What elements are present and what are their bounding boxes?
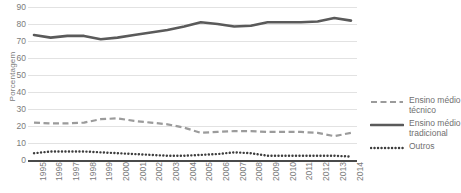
x-axis-tick-2000: 2000	[121, 162, 131, 181]
x-axis-tick-labels: 1995199619971998199920002001200220032004…	[28, 160, 357, 193]
x-axis-tick-2012: 2012	[321, 162, 331, 181]
x-axis-tick-2001: 2001	[138, 162, 148, 181]
series-line-1	[34, 18, 351, 39]
y-axis-tick-40: 40	[17, 87, 26, 97]
y-axis-tick-80: 80	[17, 19, 26, 29]
line-chart: Porcentagem 0102030405060708090 19951996…	[0, 0, 461, 193]
series-line-0	[34, 118, 351, 136]
x-axis-tick-2008: 2008	[254, 162, 264, 181]
x-axis-tick-2002: 2002	[154, 162, 164, 181]
y-axis-tick-90: 90	[17, 2, 26, 12]
y-axis-tick-labels: 0102030405060708090	[0, 0, 26, 193]
y-axis-tick-30: 30	[17, 104, 26, 114]
y-axis-tick-60: 60	[17, 53, 26, 63]
legend: Ensino médio técnicoEnsino médio tradici…	[370, 96, 461, 158]
legend-label-2: Outros	[409, 142, 435, 152]
series-line-2	[34, 152, 351, 157]
x-axis-tick-2003: 2003	[171, 162, 181, 181]
legend-item-2[interactable]: Outros	[370, 142, 461, 154]
x-axis-tick-1996: 1996	[54, 162, 64, 181]
x-axis-tick-1997: 1997	[71, 162, 81, 181]
x-axis-tick-1995: 1995	[38, 162, 48, 181]
x-axis-tick-2005: 2005	[204, 162, 214, 181]
x-axis-tick-2014: 2014	[355, 162, 365, 181]
x-axis-tick-2004: 2004	[188, 162, 198, 181]
legend-item-0[interactable]: Ensino médio técnico	[370, 96, 461, 115]
x-axis-tick-1999: 1999	[104, 162, 114, 181]
x-axis-tick-2007: 2007	[238, 162, 248, 181]
y-axis-tick-70: 70	[17, 36, 26, 46]
legend-swatch-dashed-icon	[370, 96, 404, 108]
x-axis-tick-2009: 2009	[271, 162, 281, 181]
y-axis-tick-10: 10	[17, 138, 26, 148]
legend-item-1[interactable]: Ensino médio tradicional	[370, 119, 461, 138]
y-axis-tick-0: 0	[21, 155, 26, 165]
x-axis-tick-2013: 2013	[338, 162, 348, 181]
x-axis-tick-2010: 2010	[288, 162, 298, 181]
x-axis-tick-1998: 1998	[88, 162, 98, 181]
legend-label-0: Ensino médio técnico	[409, 96, 461, 115]
legend-swatch-solid-icon	[370, 119, 404, 131]
legend-label-1: Ensino médio tradicional	[409, 119, 461, 138]
x-axis-tick-2011: 2011	[304, 162, 314, 180]
x-axis-tick-2006: 2006	[221, 162, 231, 181]
y-axis-tick-20: 20	[17, 121, 26, 131]
y-axis-tick-50: 50	[17, 70, 26, 80]
legend-swatch-dotted-icon	[370, 142, 404, 154]
